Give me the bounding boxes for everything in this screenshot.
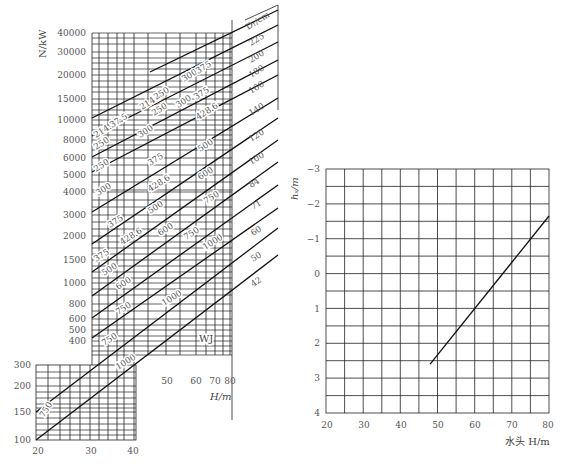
svg-text:600: 600 bbox=[156, 221, 175, 238]
left-x-axis-label: H/m bbox=[209, 391, 232, 402]
svg-text:150: 150 bbox=[14, 407, 31, 417]
svg-text:100: 100 bbox=[247, 150, 266, 167]
svg-text:20: 20 bbox=[321, 420, 333, 430]
svg-text:84: 84 bbox=[247, 175, 261, 189]
svg-text:140: 140 bbox=[247, 101, 266, 118]
svg-text:3: 3 bbox=[314, 373, 320, 383]
svg-text:71: 71 bbox=[249, 197, 263, 211]
svg-text:800: 800 bbox=[69, 299, 86, 309]
right-chart: hₛ/m bbox=[289, 164, 554, 447]
svg-text:40000: 40000 bbox=[57, 28, 86, 38]
svg-text:180: 180 bbox=[247, 63, 266, 80]
svg-text:−3: −3 bbox=[307, 164, 321, 174]
svg-text:600: 600 bbox=[196, 165, 215, 182]
svg-text:500: 500 bbox=[69, 325, 86, 335]
left-y-axis-label: N/kW bbox=[37, 29, 48, 58]
left-nomogram: N/kW bbox=[14, 5, 278, 456]
svg-text:428.6: 428.6 bbox=[118, 225, 144, 246]
svg-text:30: 30 bbox=[358, 420, 370, 430]
svg-text:10000: 10000 bbox=[57, 115, 86, 125]
svg-text:300: 300 bbox=[174, 93, 193, 110]
svg-text:−2: −2 bbox=[307, 199, 320, 209]
svg-text:20000: 20000 bbox=[57, 70, 86, 80]
svg-text:4000: 4000 bbox=[63, 187, 86, 197]
svg-text:60: 60 bbox=[190, 376, 202, 386]
svg-text:2000: 2000 bbox=[63, 231, 86, 241]
svg-text:5000: 5000 bbox=[63, 170, 86, 180]
svg-text:70: 70 bbox=[209, 376, 221, 386]
right-grid bbox=[326, 169, 549, 413]
svg-text:40: 40 bbox=[395, 420, 407, 430]
svg-text:0: 0 bbox=[314, 269, 320, 279]
svg-text:428.6: 428.6 bbox=[146, 172, 172, 193]
svg-text:2: 2 bbox=[314, 338, 320, 348]
svg-text:300: 300 bbox=[14, 360, 31, 370]
svg-text:6000: 6000 bbox=[63, 153, 86, 163]
svg-text:160: 160 bbox=[247, 79, 266, 96]
svg-text:60: 60 bbox=[469, 420, 481, 430]
svg-text:750: 750 bbox=[182, 225, 201, 242]
svg-text:30: 30 bbox=[85, 446, 97, 456]
svg-text:750: 750 bbox=[100, 331, 119, 348]
chart-canvas: N/kW bbox=[0, 0, 564, 469]
svg-text:4: 4 bbox=[314, 408, 320, 418]
svg-text:300: 300 bbox=[94, 181, 113, 198]
svg-text:60: 60 bbox=[249, 223, 263, 237]
svg-text:120: 120 bbox=[247, 127, 266, 144]
svg-text:−1: −1 bbox=[307, 234, 320, 244]
svg-text:750: 750 bbox=[202, 189, 221, 206]
svg-text:400: 400 bbox=[69, 336, 86, 346]
svg-text:50: 50 bbox=[432, 420, 444, 430]
right-x-ticks: 20 30 40 50 60 70 80 bbox=[321, 420, 554, 430]
hs-curve bbox=[430, 216, 549, 364]
svg-text:200: 200 bbox=[14, 381, 31, 391]
svg-text:80: 80 bbox=[224, 376, 236, 386]
right-x-axis-label: 水头 H/m bbox=[505, 436, 550, 447]
svg-text:500: 500 bbox=[146, 199, 165, 216]
svg-text:D₁/cm: D₁/cm bbox=[244, 9, 271, 31]
svg-text:500: 500 bbox=[100, 261, 119, 278]
svg-text:50: 50 bbox=[161, 376, 173, 386]
svg-text:8000: 8000 bbox=[63, 135, 86, 145]
svg-text:80: 80 bbox=[542, 420, 554, 430]
svg-text:1500: 1500 bbox=[63, 255, 86, 265]
svg-text:100: 100 bbox=[14, 435, 31, 445]
svg-text:428.6: 428.6 bbox=[194, 100, 220, 121]
right-y-axis-label: hₛ/m bbox=[289, 177, 300, 200]
svg-text:50: 50 bbox=[249, 249, 263, 263]
svg-text:3000: 3000 bbox=[63, 210, 86, 220]
d1-values: D₁/cm 225 200 180 160 140 120 100 84 71 … bbox=[244, 9, 271, 288]
svg-text:42: 42 bbox=[249, 274, 263, 288]
svg-text:20: 20 bbox=[32, 446, 44, 456]
svg-text:600: 600 bbox=[69, 314, 86, 324]
svg-text:750: 750 bbox=[37, 400, 54, 419]
svg-text:375: 375 bbox=[194, 59, 213, 76]
svg-text:15000: 15000 bbox=[57, 94, 86, 104]
svg-text:40: 40 bbox=[127, 446, 139, 456]
svg-text:70: 70 bbox=[506, 420, 518, 430]
svg-text:30000: 30000 bbox=[57, 47, 86, 57]
wj-annotation: WJ bbox=[199, 333, 213, 344]
right-y-ticks: −3 −2 −1 0 1 2 3 4 bbox=[307, 164, 321, 418]
svg-text:1000: 1000 bbox=[63, 278, 86, 288]
svg-text:1: 1 bbox=[314, 304, 320, 314]
